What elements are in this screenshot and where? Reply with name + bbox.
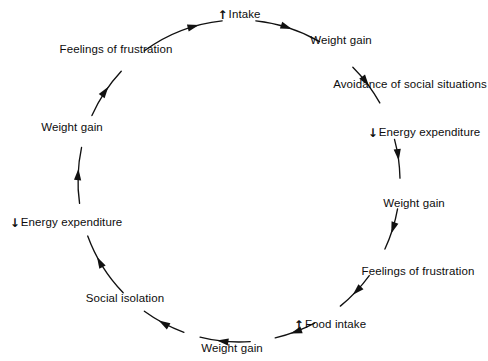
arc-avoidance-to-energy-expenditure-1-arrowhead: [394, 149, 401, 161]
node-label-text: Weight gain: [310, 34, 372, 46]
node-label-text: Energy expenditure: [379, 126, 481, 138]
node-label-feelings-of-frustration-1: Feelings of frustration: [362, 265, 475, 278]
figure-canvas: ↑IntakeWeight gainAvoidance of social si…: [0, 0, 488, 361]
node-label-avoidance-of-social-situations: Avoidance of social situations: [333, 78, 487, 91]
arc-social-isolation-to-energy-exp-2: [88, 236, 123, 293]
arc-energy-exp-2-to-weight-gain-4-arrowhead: [74, 169, 81, 181]
node-label-text: Feelings of frustration: [60, 43, 173, 55]
arc-energy-expenditure-1-to-weight-gain-2: [385, 209, 398, 249]
node-label-feelings-of-frustration-2: Feelings of frustration: [60, 43, 173, 56]
arc-avoidance-to-energy-expenditure-1: [395, 139, 400, 178]
node-label-weight-gain-3: Weight gain: [201, 342, 263, 355]
arc-weight-gain-4-to-feelings-2: [92, 71, 121, 115]
node-label-weight-gain-1: Weight gain: [310, 34, 372, 47]
node-label-text: Social isolation: [86, 292, 164, 304]
node-label-social-isolation: Social isolation: [86, 292, 164, 305]
down-arrow-icon: ↓: [10, 215, 21, 229]
node-label-weight-gain-2: Weight gain: [383, 197, 445, 210]
down-arrow-icon: ↓: [368, 125, 379, 139]
node-label-text: Weight gain: [201, 342, 263, 354]
node-label-text: Feelings of frustration: [362, 265, 475, 277]
node-label-weight-gain-4: Weight gain: [41, 121, 103, 134]
arc-weight-gain-2-to-feelings-1: [340, 276, 369, 306]
up-arrow-icon: ↑: [217, 7, 228, 21]
node-label-energy-expenditure-1: ↓Energy expenditure: [368, 126, 481, 139]
arc-weight-gain-4-to-feelings-2-arrowhead: [99, 87, 109, 98]
node-label-intake: ↑Intake: [217, 8, 260, 21]
arc-intake-to-weight-gain-1-arrowhead: [280, 22, 292, 29]
node-label-food-intake: ↑Food intake: [294, 318, 366, 331]
node-label-text: Energy expenditure: [21, 216, 123, 228]
arc-weight-gain-3-to-social-isolation-arrowhead: [159, 321, 171, 330]
up-arrow-icon: ↑: [294, 317, 305, 331]
node-label-text: Weight gain: [383, 197, 445, 209]
node-label-text: Avoidance of social situations: [333, 78, 487, 90]
node-label-text: Food intake: [305, 318, 366, 330]
node-label-text: Intake: [229, 8, 261, 20]
arc-social-isolation-to-energy-exp-2-arrowhead: [97, 257, 106, 269]
arc-feelings-2-to-intake-arrowhead: [187, 24, 199, 31]
node-label-energy-expenditure-2: ↓Energy expenditure: [10, 216, 123, 229]
node-label-text: Weight gain: [41, 121, 103, 133]
arc-energy-expenditure-1-to-weight-gain-2-arrowhead: [391, 221, 398, 233]
